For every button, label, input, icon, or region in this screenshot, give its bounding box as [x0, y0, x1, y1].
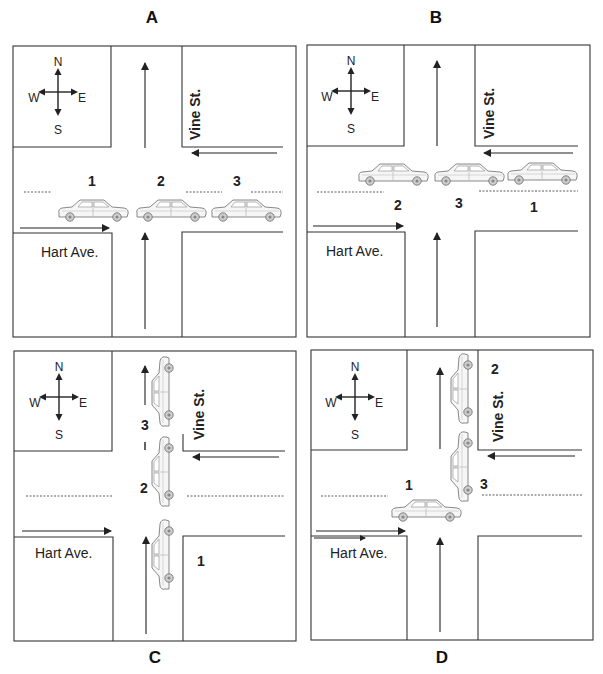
- compass-w: W: [28, 91, 40, 105]
- compass-e: E: [371, 90, 379, 104]
- compass-e: E: [375, 396, 383, 410]
- car-icon: [212, 200, 281, 221]
- car-number: 3: [233, 173, 241, 189]
- car-number: 2: [140, 480, 148, 496]
- car-number: 1: [88, 173, 96, 189]
- car-number: 2: [394, 197, 402, 213]
- compass-n: N: [55, 360, 64, 374]
- car-number: 3: [455, 195, 463, 211]
- street-label-hart: Hart Ave.: [326, 243, 383, 259]
- compass-n: N: [347, 54, 356, 68]
- street-label-vine: Vine St.: [191, 389, 207, 440]
- compass-w: W: [321, 90, 333, 104]
- street-label-hart: Hart Ave.: [330, 545, 387, 561]
- car-number: 3: [141, 417, 149, 433]
- car-icon: [152, 357, 173, 426]
- car-number: 3: [480, 476, 488, 492]
- compass-s: S: [54, 123, 62, 137]
- compass-n: N: [54, 55, 63, 69]
- compass-s: S: [351, 428, 359, 442]
- street-label-hart: Hart Ave.: [35, 545, 92, 561]
- car-number: 1: [197, 553, 205, 569]
- compass-s: S: [347, 122, 355, 136]
- street-label-vine: Vine St.: [490, 391, 506, 442]
- compass-e: E: [79, 396, 87, 410]
- car-icon: [508, 163, 577, 184]
- compass-n: N: [351, 360, 360, 374]
- car-number: 1: [530, 199, 538, 215]
- car-icon: [359, 164, 428, 185]
- compass-w: W: [325, 396, 337, 410]
- compass-icon: [335, 373, 375, 421]
- car-number: 2: [157, 173, 165, 189]
- car-icon: [152, 520, 173, 589]
- compass-w: W: [29, 396, 41, 410]
- car-icon: [392, 500, 461, 521]
- car-icon: [435, 164, 504, 185]
- car-number: 1: [405, 477, 413, 493]
- street-label-vine: Vine St.: [481, 88, 497, 139]
- car-icon: [59, 200, 128, 221]
- street-label-vine: Vine St.: [187, 89, 203, 140]
- car-icon: [451, 354, 472, 423]
- compass-s: S: [55, 428, 63, 442]
- compass-e: E: [78, 91, 86, 105]
- street-label-hart: Hart Ave.: [41, 244, 98, 260]
- panel-b: [307, 45, 590, 337]
- compass-icon: [39, 373, 79, 421]
- compass-icon: [331, 67, 371, 115]
- car-icon: [451, 432, 472, 501]
- car-icon: [137, 200, 206, 221]
- car-icon: [152, 437, 173, 506]
- compass-icon: [38, 68, 78, 116]
- intersection-diagram: N S W E Hart Ave. Vine St. 1 2 3 N S W E…: [0, 0, 603, 674]
- panel-a: [13, 46, 296, 337]
- car-number: 2: [491, 361, 499, 377]
